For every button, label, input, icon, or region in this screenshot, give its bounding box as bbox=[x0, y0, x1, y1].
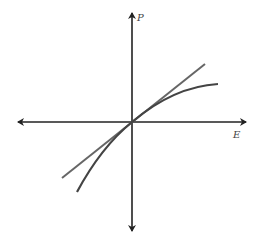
e-axis-label: E bbox=[232, 129, 241, 140]
nonlinear-response-curve bbox=[77, 84, 218, 192]
p-axis-label: P bbox=[136, 12, 144, 23]
polarization-diagram: P E bbox=[0, 0, 258, 241]
